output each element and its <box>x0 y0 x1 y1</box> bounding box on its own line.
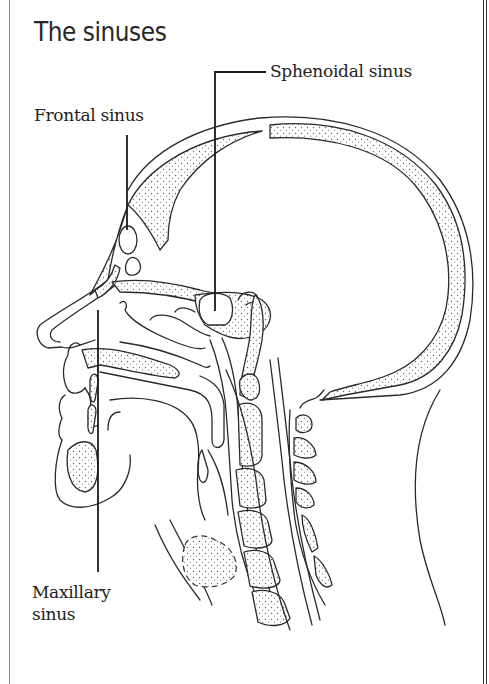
sphenoidal-sinus-leader <box>215 72 266 311</box>
nasal-structure <box>37 205 140 348</box>
skull-outline <box>128 117 473 625</box>
frontal-sinus-cavity <box>119 226 137 254</box>
label-frontal-sinus: Frontal sinus <box>34 104 144 126</box>
label-maxillary-sinus: Maxillary sinus <box>32 581 111 625</box>
label-maxillary-line1: Maxillary <box>32 581 111 603</box>
label-sphenoidal-sinus: Sphenoidal sinus <box>270 60 412 82</box>
palate <box>64 343 225 447</box>
jaw-and-teeth <box>55 374 205 520</box>
label-maxillary-line2: sinus <box>32 603 111 625</box>
spinous-processes <box>289 390 332 605</box>
thyroid-region <box>183 536 237 587</box>
